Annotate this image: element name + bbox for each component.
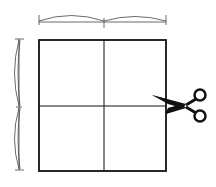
top-dimension [39, 15, 166, 28]
left-dimension [15, 39, 25, 170]
diagram-canvas: Square folded into quarters with cut mar… [0, 0, 216, 187]
folded-square [39, 40, 166, 171]
